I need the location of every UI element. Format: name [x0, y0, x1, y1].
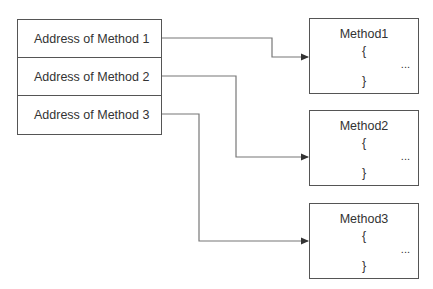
method-box-3: Method3 { ... }: [309, 203, 419, 279]
pointer-arrow-3: [162, 114, 308, 241]
method-body: ...: [401, 243, 410, 255]
close-brace: }: [310, 74, 418, 88]
pointer-arrow-1: [162, 38, 308, 57]
pointer-arrow-2: [162, 76, 308, 157]
address-label: Address of Method 3: [34, 108, 149, 122]
address-label: Address of Method 1: [34, 32, 149, 46]
address-row-1: Address of Method 1: [18, 20, 161, 58]
method-address-table: Address of Method 1 Address of Method 2 …: [17, 19, 162, 135]
address-row-3: Address of Method 3: [18, 96, 161, 134]
address-row-2: Address of Method 2: [18, 58, 161, 96]
method-box-2: Method2 { ... }: [309, 110, 419, 186]
method-name: Method2: [310, 119, 418, 133]
method-name: Method1: [310, 27, 418, 41]
open-brace: {: [310, 229, 418, 243]
open-brace: {: [310, 136, 418, 150]
method-box-1: Method1 { ... }: [309, 18, 419, 94]
close-brace: }: [310, 166, 418, 180]
open-brace: {: [310, 44, 418, 58]
method-body: ...: [401, 58, 410, 70]
address-label: Address of Method 2: [34, 70, 149, 84]
close-brace: }: [310, 259, 418, 273]
method-name: Method3: [310, 212, 418, 226]
method-body: ...: [401, 150, 410, 162]
